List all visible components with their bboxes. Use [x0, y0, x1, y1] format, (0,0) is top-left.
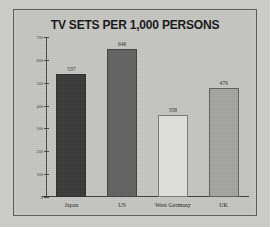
plot-area: 0100200300400500600700 537Japan646US358W…: [46, 37, 249, 197]
bar[interactable]: [209, 88, 239, 197]
y-tick-label: 300: [36, 126, 43, 131]
y-tick-mark: [44, 197, 49, 198]
chart-page: TV SETS PER 1,000 PERSONS 01002003004005…: [0, 0, 270, 227]
bar-value-label: 537: [67, 66, 75, 72]
chart-frame: TV SETS PER 1,000 PERSONS 01002003004005…: [13, 9, 257, 216]
x-axis-category-label: West Germany: [155, 202, 191, 208]
y-tick-label: 500: [36, 80, 43, 85]
bar-group: 646US: [97, 37, 148, 197]
x-axis-category-label: US: [118, 202, 126, 208]
bar-group: 479UK: [198, 37, 249, 197]
y-tick-label: 200: [36, 149, 43, 154]
y-tick-label: 0: [41, 195, 43, 200]
x-axis-category-label: UK: [219, 202, 228, 208]
chart-panel: TV SETS PER 1,000 PERSONS 01002003004005…: [16, 12, 254, 213]
bar[interactable]: [107, 49, 137, 197]
chart-title: TV SETS PER 1,000 PERSONS: [16, 18, 254, 32]
bar-value-label: 646: [118, 41, 126, 47]
bar-group: 358West Germany: [148, 37, 199, 197]
bar[interactable]: [158, 115, 188, 197]
y-tick-label: 600: [36, 57, 43, 62]
y-tick-label: 700: [36, 35, 43, 40]
bar-group: 537Japan: [46, 37, 97, 197]
x-axis-category-label: Japan: [65, 202, 79, 208]
y-tick-label: 400: [36, 103, 43, 108]
bar-value-label: 358: [169, 107, 177, 113]
bar[interactable]: [56, 74, 86, 197]
bar-value-label: 479: [219, 80, 227, 86]
y-tick-label: 100: [36, 172, 43, 177]
